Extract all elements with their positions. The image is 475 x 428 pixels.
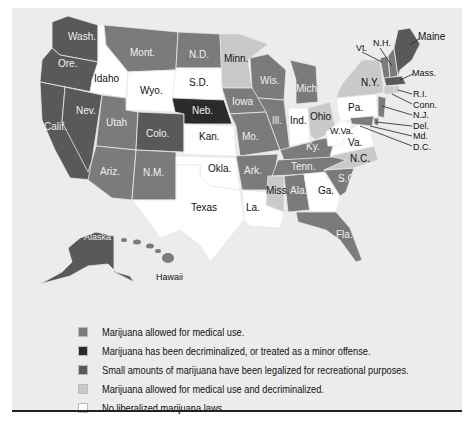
label-ri: R.I. bbox=[413, 89, 427, 99]
label-vt: Vt. bbox=[356, 43, 367, 53]
legend-item-medical: Marijuana allowed for medical use. bbox=[78, 322, 450, 341]
label-md: Md. bbox=[413, 131, 428, 141]
label-ky: Ky. bbox=[306, 141, 320, 152]
label-pa: Pa. bbox=[348, 102, 363, 113]
label-wyo: Wyo. bbox=[140, 85, 163, 96]
state-mass[interactable] bbox=[384, 76, 406, 86]
label-nc: N.C. bbox=[350, 153, 370, 164]
label-mo: Mo. bbox=[242, 131, 259, 142]
label-wash: Wash. bbox=[68, 31, 96, 42]
label-texas: Texas bbox=[191, 202, 217, 213]
label-ga: Ga. bbox=[318, 185, 334, 196]
label-la: La. bbox=[246, 202, 260, 213]
legend-swatch-recreational bbox=[78, 365, 88, 375]
label-ny: N.Y. bbox=[361, 77, 379, 88]
label-iowa: Iowa bbox=[232, 96, 254, 107]
legend-label: Marijuana allowed for medical use and de… bbox=[102, 383, 324, 395]
label-wva: W.Va. bbox=[330, 126, 353, 136]
label-ark: Ark. bbox=[244, 165, 262, 176]
label-alaska: Alaska bbox=[84, 232, 111, 242]
label-ind: Ind. bbox=[290, 115, 307, 126]
label-maine: Maine bbox=[418, 31, 446, 42]
state-md[interactable] bbox=[350, 116, 374, 126]
bottom-rule bbox=[12, 410, 462, 412]
label-hawaii: Hawaii bbox=[156, 272, 183, 282]
label-colo: Colo. bbox=[146, 128, 169, 139]
label-ill: Ill. bbox=[272, 115, 282, 126]
legend-swatch-medical bbox=[78, 327, 88, 337]
label-kan: Kan. bbox=[199, 131, 220, 142]
label-fla: Fla. bbox=[336, 229, 353, 240]
state-mich[interactable] bbox=[290, 60, 318, 104]
state-hawaii[interactable] bbox=[121, 238, 174, 263]
legend-label: Small amounts of marijuana have been leg… bbox=[102, 364, 409, 376]
label-idaho: Idaho bbox=[94, 73, 119, 84]
label-miss: Miss. bbox=[266, 185, 289, 196]
label-conn: Conn. bbox=[413, 100, 437, 110]
label-nh: N.H. bbox=[373, 38, 391, 48]
legend-swatch-medical-and-decriminalized bbox=[78, 384, 88, 394]
label-mich: Mich. bbox=[296, 83, 320, 94]
label-nd: N.D. bbox=[189, 49, 209, 60]
label-sc: S.C. bbox=[338, 173, 357, 184]
legend-item-medical-and-decriminalized: Marijuana allowed for medical use and de… bbox=[78, 379, 450, 398]
label-nj: N.J. bbox=[413, 110, 429, 120]
label-ore: Ore. bbox=[58, 58, 77, 69]
label-va: Va. bbox=[348, 137, 362, 148]
label-nev: Nev. bbox=[76, 105, 96, 116]
label-ohio: Ohio bbox=[310, 111, 332, 122]
label-wis: Wis. bbox=[260, 75, 279, 86]
label-minn: Minn. bbox=[224, 53, 248, 64]
label-mont: Mont. bbox=[130, 47, 155, 58]
label-neb: Neb. bbox=[192, 105, 213, 116]
label-mass: Mass. bbox=[412, 68, 436, 78]
label-dc: D.C. bbox=[413, 142, 431, 152]
label-nm: N.M. bbox=[143, 167, 164, 178]
label-sd: S.D. bbox=[189, 77, 208, 88]
legend-label: Marijuana allowed for medical use. bbox=[102, 326, 244, 338]
label-ariz: Ariz. bbox=[100, 166, 120, 177]
legend-swatch-decriminalized bbox=[78, 346, 88, 356]
legend-label: Marijuana has been decriminalized, or tr… bbox=[102, 345, 370, 357]
state-conn[interactable] bbox=[384, 86, 394, 94]
label-del: Del. bbox=[413, 121, 429, 131]
legend-item-none: No liberalized marijuana laws. bbox=[78, 398, 450, 417]
map-legend: Marijuana allowed for medical use. Marij… bbox=[78, 322, 450, 417]
legend-item-decriminalized: Marijuana has been decriminalized, or tr… bbox=[78, 341, 450, 360]
label-utah: Utah bbox=[106, 117, 127, 128]
label-calif: Calif. bbox=[44, 121, 67, 132]
label-tenn: Tenn. bbox=[291, 161, 315, 172]
label-okla: Okla. bbox=[208, 163, 231, 174]
legend-item-recreational: Small amounts of marijuana have been leg… bbox=[78, 360, 450, 379]
label-ala: Ala. bbox=[290, 185, 307, 196]
